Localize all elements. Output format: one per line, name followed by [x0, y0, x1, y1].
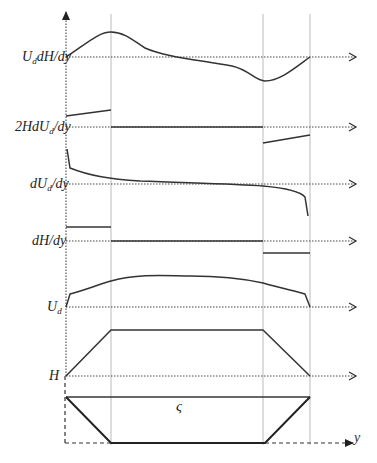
label-H: H [49, 369, 59, 383]
label-main: 2HdU [15, 119, 49, 134]
curve-H [66, 330, 310, 376]
water-surface-symbol: ς [176, 399, 182, 414]
curve-2HdUddy-right [263, 135, 310, 143]
label-Ud: Ud [47, 300, 62, 316]
label-main: U [22, 49, 32, 64]
label-main: dH/dy [32, 233, 66, 248]
x-axis-label-y: y [354, 430, 360, 446]
label-dUddy: dUd/dy [30, 177, 69, 193]
label-main: U [47, 299, 57, 314]
curve-Ud [66, 275, 310, 307]
profile-diagram [0, 0, 377, 463]
label-tail: /dy [52, 176, 69, 191]
channel-bed [66, 397, 310, 443]
label-2HdUddy: 2HdUd/dy [15, 120, 71, 136]
label-UdHdy: UddH/dy [22, 50, 71, 66]
label-main: H [49, 368, 59, 383]
curve-2HdUddy-left [66, 110, 111, 116]
label-dHdy: dH/dy [32, 234, 66, 248]
label-main: dU [30, 176, 47, 191]
label-tail: /dy [54, 119, 71, 134]
curve-dUddy [67, 149, 308, 216]
label-tail: dH/dy [37, 49, 71, 64]
label-sub: d [57, 306, 62, 316]
